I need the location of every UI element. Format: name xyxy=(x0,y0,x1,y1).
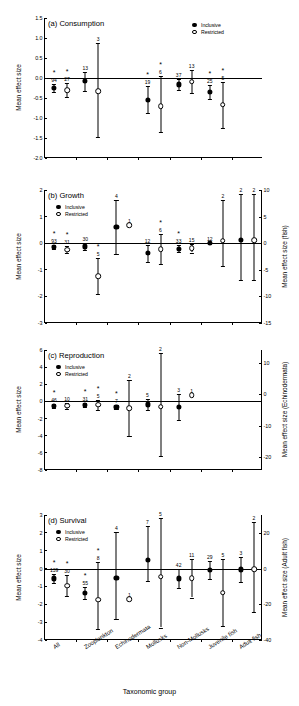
sample-size-label: 30 xyxy=(64,568,70,574)
error-bar-cap xyxy=(158,264,162,265)
error-bar-cap xyxy=(239,194,243,195)
filled-circle-icon xyxy=(190,22,199,28)
marker-restricted xyxy=(64,247,70,253)
y-tick-label: -2 xyxy=(38,293,45,299)
significance-star: * xyxy=(53,71,56,75)
x-tick-mark xyxy=(201,469,202,472)
left-axis-label: Mean effect size xyxy=(15,190,22,323)
error-bar-cap xyxy=(252,194,256,195)
error-bar-cap xyxy=(221,200,225,201)
marker-restricted xyxy=(189,245,195,251)
error-bar-cap xyxy=(52,92,56,93)
legend-label: Inclusive xyxy=(63,204,85,210)
sample-size-label: 4 xyxy=(115,525,118,531)
marker-inclusive xyxy=(83,244,88,249)
error-bar-cap xyxy=(65,97,69,98)
x-tick-mark xyxy=(138,639,139,642)
error-bar-cap xyxy=(65,83,69,84)
x-tick-mark xyxy=(170,322,171,325)
panel-title-d: (d) Survival xyxy=(48,516,86,525)
sample-size-label: 10 xyxy=(64,396,70,402)
error-bar-cap xyxy=(208,85,212,86)
error-bar-cap xyxy=(127,380,131,381)
error-bar-cap xyxy=(208,579,212,580)
error-bar-cap xyxy=(114,619,118,620)
open-circle-icon xyxy=(190,29,199,35)
y-tick-label: -8 xyxy=(38,467,45,473)
sample-size-label: 33 xyxy=(176,238,182,244)
y-tick-label: -6 xyxy=(38,450,45,456)
significance-star: * xyxy=(97,387,100,391)
error-bar-cap xyxy=(177,252,181,253)
legend-item-restricted: Restricted xyxy=(190,28,224,35)
error-bar-cap xyxy=(252,280,256,281)
x-tick-mark xyxy=(138,322,139,325)
error-bar-cap xyxy=(65,409,69,410)
error-bar-cap xyxy=(158,353,162,354)
error-bar-cap xyxy=(96,629,100,630)
x-tick-mark xyxy=(76,322,77,325)
marker-restricted xyxy=(158,103,164,109)
marker-restricted xyxy=(189,79,195,85)
right-axis-label: Mean effect size (Adult fish) xyxy=(281,515,288,640)
marker-restricted xyxy=(220,590,226,596)
error-bar-cap xyxy=(252,522,256,523)
error-bar-cap xyxy=(190,93,194,94)
x-tick-mark xyxy=(232,322,233,325)
sample-size-label: 2 xyxy=(128,373,131,379)
error-bar-cap xyxy=(158,132,162,133)
marker-inclusive xyxy=(145,557,150,562)
error-bar-cap xyxy=(239,582,243,583)
error-bar-cap xyxy=(177,90,181,91)
marker-inclusive xyxy=(176,246,181,251)
marker-inclusive xyxy=(145,402,150,407)
error-bar-cap xyxy=(83,91,87,92)
error-bar-cap xyxy=(145,86,149,87)
error-bar-cap xyxy=(177,588,181,589)
error-bar-cap xyxy=(96,294,100,295)
sample-size-label: 13 xyxy=(82,65,88,71)
legend-label: Restricted xyxy=(63,211,88,217)
error-bar-cap xyxy=(158,518,162,519)
significance-star: * xyxy=(66,70,69,74)
x-tick-mark xyxy=(232,157,233,160)
sample-size-label: 30 xyxy=(82,236,88,242)
sample-size-label: 4 xyxy=(115,193,118,199)
y-tick-label-right: -20 xyxy=(261,601,271,607)
x-tick-mark xyxy=(76,157,77,160)
marker-inclusive xyxy=(176,576,181,581)
sample-size-label: 3 xyxy=(97,36,100,42)
error-bar-cap xyxy=(114,254,118,255)
sample-size-label: 29 xyxy=(207,554,213,560)
y-tick-label: 3 xyxy=(40,512,46,518)
y-tick-label-right: 20 xyxy=(261,530,269,536)
sample-size-label: 37 xyxy=(176,72,182,78)
error-bar-cap xyxy=(208,561,212,562)
sample-size-label: 139 xyxy=(50,567,58,573)
x-axis-title: Taxonomic group xyxy=(0,688,299,695)
panel-title-b: (b) Growth xyxy=(48,191,84,200)
x-tick-mark xyxy=(170,157,171,160)
sample-size-label: 15 xyxy=(189,237,195,243)
significance-star: * xyxy=(177,232,180,236)
y-tick-label: -4 xyxy=(38,433,45,439)
error-bar-cap xyxy=(96,43,100,44)
error-bar-cap xyxy=(177,79,181,80)
significance-star: * xyxy=(115,392,118,396)
sample-size-label: 46 xyxy=(51,397,57,403)
marker-restricted xyxy=(158,247,164,253)
y-tick-label: -0.5 xyxy=(34,95,45,101)
error-bar-cap xyxy=(127,436,131,437)
significance-star: * xyxy=(146,73,149,77)
legend-label: Restricted xyxy=(63,371,88,377)
marker-restricted xyxy=(127,406,133,412)
sample-size-label: 6 xyxy=(159,69,162,75)
x-tick-mark xyxy=(232,469,233,472)
zero-line xyxy=(45,78,262,79)
error-bar-cap xyxy=(158,234,162,235)
legend-label: Restricted xyxy=(199,29,224,35)
sample-size-label: 1 xyxy=(128,592,131,598)
error-bar-cap xyxy=(96,137,100,138)
x-tick-mark xyxy=(107,322,108,325)
sample-size-label: 5 xyxy=(97,251,100,257)
